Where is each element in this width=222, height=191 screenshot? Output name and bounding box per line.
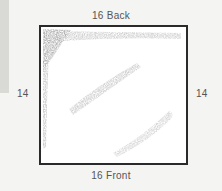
bottom-dimension-label: 16 Front [0, 170, 222, 181]
top-dimension-label: 16 Back [0, 10, 222, 21]
square-outline [39, 25, 188, 165]
right-dimension-label: 14 [196, 88, 208, 99]
pencil-shading-illustration [41, 27, 186, 163]
left-dimension-label: 14 [17, 88, 29, 99]
